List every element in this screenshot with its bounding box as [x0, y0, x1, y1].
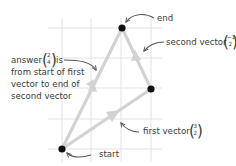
end-pointer-icon [126, 15, 154, 22]
vector-diagram: end second vector ( −1 2 ) answer ( 2 4 … [0, 0, 236, 166]
start-label: start [99, 149, 120, 159]
end-label: end [157, 13, 173, 23]
second-vector-label: second vector ( −1 2 ) [166, 33, 236, 51]
paren-close: ) [232, 33, 236, 51]
second-vector-pointer-icon [144, 42, 164, 51]
first-vector-pointer-icon [121, 123, 139, 132]
second-vector-text: second vector [166, 37, 227, 47]
answer-suffix: is [56, 55, 63, 65]
end-point [118, 24, 125, 31]
answer-line2: from start of first [11, 67, 85, 77]
answer-prefix: answer [11, 55, 43, 65]
answer-line4: second vector [11, 91, 72, 101]
paren-close: ) [197, 122, 203, 140]
middle-point [147, 85, 154, 92]
start-pointer-icon [67, 153, 91, 157]
first-vector-label: first vector ( 3 2 ) [143, 122, 203, 140]
start-point [58, 145, 65, 152]
first-vector-text: first vector [143, 126, 190, 136]
answer-line3: vector to end of [11, 79, 81, 89]
